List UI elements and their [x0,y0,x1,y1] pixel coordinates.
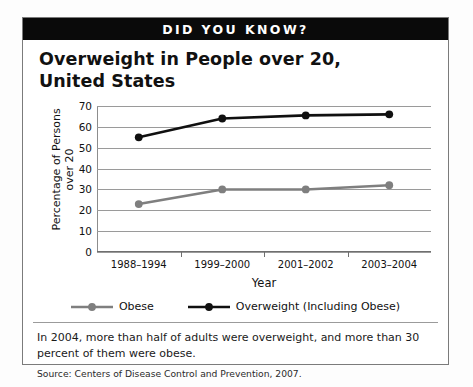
divider [33,322,438,323]
chart-area: Percentage of Persons over 20 0102030405… [35,98,437,290]
chart-legend: ObeseOverweight (Including Obese) [23,300,448,313]
chart-y-tick-label: 40 [79,163,92,175]
chart-x-axis-label: Year [97,276,431,290]
caption-text: In 2004, more than half of adults were o… [37,330,434,362]
page-title-line-2: United States [39,70,429,92]
legend-item: Obese [71,300,154,313]
chart-series-layer [97,106,431,252]
chart-line-obese [139,185,390,204]
legend-label: Overweight (Including Obese) [236,300,400,313]
chart-x-tick-mark [348,252,349,257]
chart-x-tick-label: 1988–1994 [111,259,167,270]
page-root: DID YOU KNOW? Overweight in People over … [0,0,473,387]
chart-y-axis-label-text: Percentage of Persons over 20 [50,108,76,230]
legend-marker-icon [188,301,230,313]
chart-y-tick-label: 20 [79,204,92,216]
chart-data-point [218,186,226,194]
chart-y-tick-label: 70 [79,100,92,112]
legend-item: Overweight (Including Obese) [188,300,400,313]
chart-x-tick-mark [264,252,265,257]
chart-data-point [218,115,226,123]
chart-x-tick-label: 2001–2002 [278,259,334,270]
chart-y-tick-label: 10 [79,225,92,237]
chart-y-tick-label: 60 [79,121,92,133]
chart-y-axis-label: Percentage of Persons over 20 [50,99,77,239]
chart-x-tick-label: 2003–2004 [361,259,417,270]
chart-data-point [385,110,393,118]
chart-line-overweight-including-obese [139,114,390,137]
chart-y-tick-label: 0 [85,246,92,258]
chart-y-tick-label: 30 [79,183,92,195]
page-title-line-1: Overweight in People over 20, [39,48,429,70]
chart-y-tick-label: 50 [79,142,92,154]
source-text: Source: Centers of Disease Control and P… [37,368,434,379]
chart-x-axis-label-text: Year [252,276,276,290]
chart-x-tick-label: 1999–2000 [194,259,250,270]
chart-data-point [135,200,143,208]
chart-x-tick-mark [181,252,182,257]
did-you-know-banner: DID YOU KNOW? [23,18,448,40]
legend-label: Obese [119,300,154,313]
chart-data-point [302,186,310,194]
chart-data-point [385,181,393,189]
chart-plot-area: 0102030405060701988–19941999–20002001–20… [97,106,431,252]
page-title: Overweight in People over 20, United Sta… [39,48,429,93]
chart-data-point [302,111,310,119]
chart-data-point [135,133,143,141]
did-you-know-card: DID YOU KNOW? Overweight in People over … [22,17,449,365]
legend-marker-icon [71,301,113,313]
banner-label: DID YOU KNOW? [162,22,309,37]
